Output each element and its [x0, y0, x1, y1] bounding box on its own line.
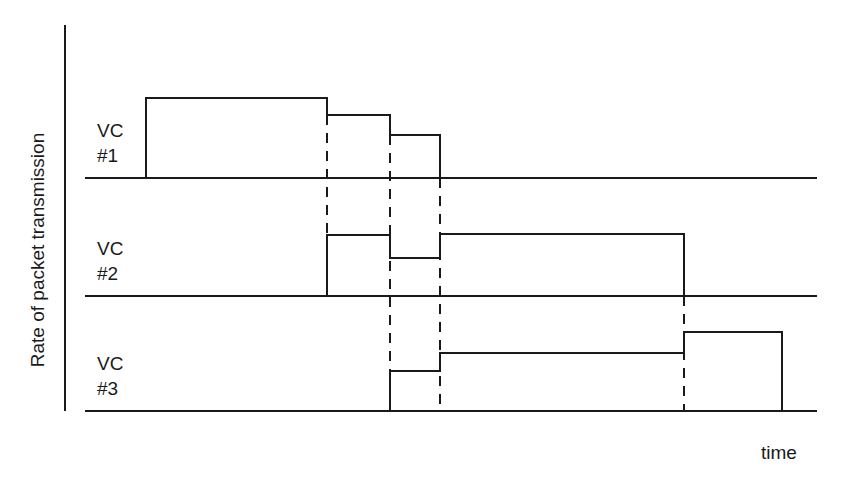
- vc1-rate-trace: [146, 98, 440, 178]
- vc2-label-line2: #2: [97, 263, 118, 284]
- vc3-label-line1: VC: [97, 353, 123, 374]
- vc3-label-line2: #3: [97, 378, 118, 399]
- vc3-rate-trace: [390, 332, 782, 411]
- vc2-label-line1: VC: [97, 238, 123, 259]
- vc1-label-line1: VC: [97, 120, 123, 141]
- x-axis-label: time: [761, 442, 797, 463]
- dashed-guides: [327, 115, 684, 411]
- rate-diagram: Rate of packet transmission VC #1 VC #2 …: [0, 0, 848, 489]
- vc1-label-line2: #1: [97, 145, 118, 166]
- y-axis-label: Rate of packet transmission: [27, 133, 48, 367]
- vc2-rate-trace: [327, 234, 684, 296]
